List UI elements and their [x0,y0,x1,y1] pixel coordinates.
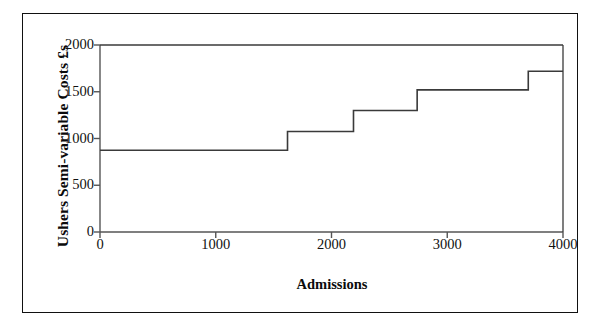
y-tick-label: 1500 [42,83,94,100]
data-series-step-line [100,71,563,150]
x-axis-title: Admissions [100,276,564,293]
plot-area [100,45,563,232]
x-tick-label: 2000 [297,236,367,253]
y-tick-label: 1000 [42,130,94,147]
x-tick-label: 3000 [412,236,482,253]
step-chart-svg [100,45,563,232]
y-tick-label: 2000 [42,36,94,53]
x-axis-tick-labels: 01000200030004000 [100,236,563,260]
figure-container: Ushers Semi-variable Costs £s 0500100015… [0,0,600,331]
x-axis [100,45,563,238]
x-tick-label: 4000 [528,236,598,253]
y-tick-label: 500 [42,176,94,193]
y-axis-tick-labels: 0500100015002000 [38,45,94,232]
x-tick-label: 1000 [181,236,251,253]
step-line-ushers-semi-variable-costs [100,71,563,150]
x-tick-label: 0 [65,236,135,253]
